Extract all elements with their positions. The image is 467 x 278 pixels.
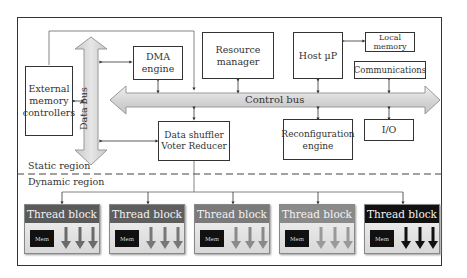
- data-bus-label: Data bus: [78, 87, 89, 130]
- io-block: I/O: [364, 119, 414, 141]
- down-arrow-icon: [401, 227, 411, 249]
- mem-block: Mem: [200, 230, 224, 247]
- down-arrow-icon: [245, 227, 255, 249]
- down-arrow-icon: [415, 227, 425, 249]
- thread-block-header: Thread block: [365, 205, 439, 223]
- down-arrow-icon: [231, 227, 241, 249]
- communications-block: Communications: [354, 61, 426, 79]
- thread-block-header: Thread block: [25, 205, 99, 223]
- host-up-block: Host µP: [293, 32, 343, 79]
- data-shuffler-voter-reducer-block: Data shuffler Voter Reducer: [158, 121, 230, 161]
- reconfiguration-engine-block: Reconfiguration engine: [283, 119, 353, 160]
- mem-block: Mem: [285, 230, 309, 247]
- down-arrow-icon: [330, 227, 340, 249]
- thread-block-1: Thread block Mem: [24, 204, 100, 254]
- local-memory-block: Local memory: [365, 32, 415, 52]
- thread-block-3: Thread block Mem: [194, 204, 270, 254]
- mem-block: Mem: [370, 230, 394, 247]
- down-arrow-icon: [173, 227, 183, 249]
- thread-block-header: Thread block: [195, 205, 269, 223]
- thread-block-header: Thread block: [110, 205, 184, 223]
- thread-block-4: Thread block Mem: [279, 204, 355, 254]
- down-arrow-icon: [428, 227, 438, 249]
- down-arrow-icon: [316, 227, 326, 249]
- control-bus-label: Control bus: [245, 94, 304, 105]
- thread-block-header: Thread block: [280, 205, 354, 223]
- external-memory-controllers-block: External memory controllers: [25, 66, 73, 136]
- down-arrow-icon: [75, 227, 85, 249]
- static-region-label: Static region: [28, 160, 90, 171]
- mem-block: Mem: [115, 230, 139, 247]
- down-arrow-icon: [160, 227, 170, 249]
- mem-block: Mem: [30, 230, 54, 247]
- down-arrow-icon: [258, 227, 268, 249]
- down-arrow-icon: [343, 227, 353, 249]
- down-arrow-icon: [88, 227, 98, 249]
- dynamic-region-label: Dynamic region: [28, 176, 104, 187]
- resource-manager-block: Resource manager: [202, 32, 274, 79]
- down-arrow-icon: [61, 227, 71, 249]
- thread-block-2: Thread block Mem: [109, 204, 185, 254]
- thread-block-5: Thread block Mem: [364, 204, 440, 254]
- down-arrow-icon: [146, 227, 156, 249]
- dma-engine-block: DMA engine: [133, 46, 183, 80]
